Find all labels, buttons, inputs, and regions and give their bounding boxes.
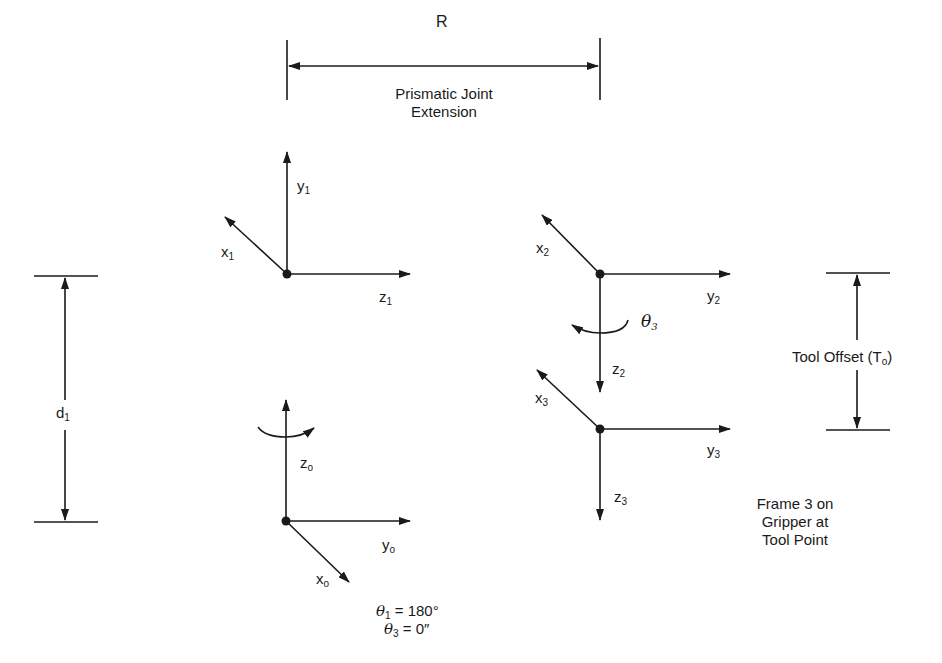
d1-dimension	[34, 276, 98, 522]
frame-origins	[282, 270, 605, 526]
frame3-z-label: z3	[614, 489, 627, 507]
frame2-origin	[596, 270, 605, 279]
tool-offset-label: Tool Offset (To)	[792, 349, 892, 367]
frame2-axes	[542, 215, 730, 392]
frame3-note-line2: Gripper at	[740, 514, 850, 529]
frame0-origin	[282, 517, 291, 526]
theta3-value: θ3 = 0″	[384, 621, 429, 639]
r-caption-line1: Prismatic Joint	[364, 86, 524, 101]
frame2-x-label: x2	[536, 240, 549, 258]
frame1-y-label: y1	[297, 178, 310, 196]
frame0-x-label: xo	[316, 571, 329, 589]
frame1-origin	[283, 270, 292, 279]
frame2-z-label: z2	[612, 361, 625, 379]
frame3-note-line3: Tool Point	[740, 532, 850, 547]
frame3-axes	[537, 370, 730, 520]
frame3-y-label: y3	[707, 442, 720, 460]
frame1-x-label: x1	[221, 244, 234, 262]
theta3-rotation-label: θ3	[641, 313, 658, 332]
frame0-y-label: yo	[382, 537, 395, 555]
frame1-axes	[225, 152, 410, 274]
frame1-z-label: z1	[379, 289, 392, 307]
frame3-x-label: x3	[535, 390, 548, 408]
r-label: R	[436, 14, 448, 30]
r-caption-line2: Extension	[364, 104, 524, 119]
frame3-note-line1: Frame 3 on	[740, 496, 850, 511]
frame3-origin	[596, 425, 605, 434]
frame0-z-label: zo	[300, 455, 313, 473]
frame2-y-label: y2	[707, 288, 720, 306]
theta1-value: θ1 = 180°	[376, 603, 439, 621]
d1-label: d1	[56, 405, 70, 423]
